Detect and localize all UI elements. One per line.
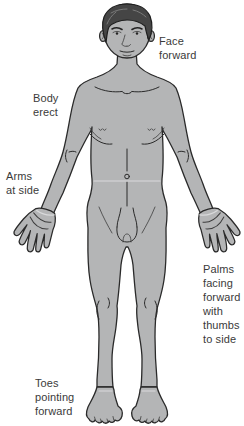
figure-body — [41, 50, 213, 387]
figure-right-foot — [132, 387, 168, 423]
label-toes-pointing-forward: Toes pointing forward — [35, 376, 74, 418]
figure-right-hand — [196, 203, 244, 256]
figure-left-foot — [87, 387, 123, 423]
label-palms-facing-forward: Palms facing forward with thumbs to side — [203, 262, 240, 346]
label-face-forward: Face forward — [159, 34, 196, 62]
label-body-erect: Body erect — [33, 91, 58, 119]
label-arms-at-side: Arms at side — [6, 169, 39, 197]
anatomical-figure — [0, 0, 244, 426]
figure-left-hand — [10, 203, 58, 256]
anatomical-position-diagram: Face forward Body erect Arms at side Pal… — [0, 0, 244, 426]
